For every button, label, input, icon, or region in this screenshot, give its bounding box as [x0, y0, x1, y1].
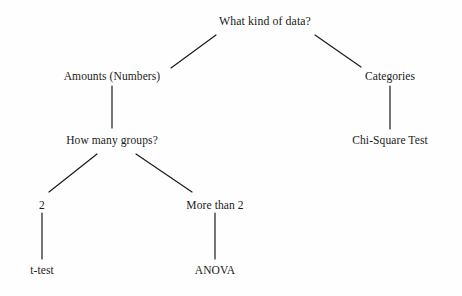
- node-what-kind-of-data: What kind of data?: [219, 15, 311, 28]
- edge-root-amounts: [171, 35, 216, 68]
- edge-groups-morethan2: [136, 154, 192, 192]
- node-two: 2: [39, 199, 45, 212]
- node-t-test: t-test: [30, 264, 54, 277]
- decision-tree-diagram: What kind of data? Amounts (Numbers) Cat…: [0, 0, 462, 296]
- node-more-than-2: More than 2: [186, 199, 243, 212]
- node-chi-square-test: Chi-Square Test: [352, 134, 428, 147]
- node-anova: ANOVA: [195, 264, 236, 277]
- edge-groups-two: [49, 154, 97, 192]
- node-how-many-groups: How many groups?: [66, 134, 158, 147]
- connector-lines: [0, 0, 462, 296]
- node-amounts-numbers: Amounts (Numbers): [64, 70, 161, 83]
- node-categories: Categories: [365, 70, 415, 83]
- edge-root-categories: [315, 35, 361, 67]
